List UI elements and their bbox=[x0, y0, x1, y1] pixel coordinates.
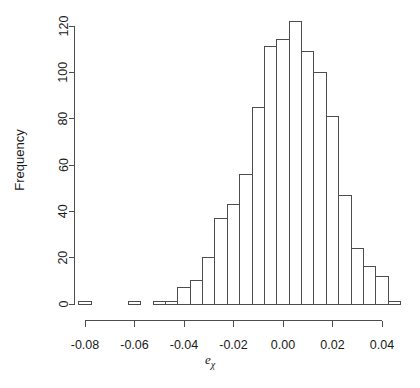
histogram-bar bbox=[314, 72, 326, 304]
y-axis: 020406080100120 bbox=[57, 16, 75, 308]
histogram-bar bbox=[264, 47, 276, 304]
histogram-bar bbox=[363, 267, 375, 304]
x-axis-tick-label: -0.08 bbox=[71, 338, 100, 352]
histogram-bar bbox=[302, 51, 314, 304]
x-axis-tick-label: 0.02 bbox=[320, 338, 344, 352]
histogram-bar bbox=[277, 40, 289, 304]
histogram-bar bbox=[165, 302, 177, 304]
x-axis-tick-label: -0.04 bbox=[170, 338, 199, 352]
histogram-bar bbox=[326, 116, 338, 304]
y-axis-tick-label: 0 bbox=[57, 300, 71, 307]
histogram-bar bbox=[351, 248, 363, 304]
histogram-bar bbox=[215, 218, 227, 304]
histogram-bar bbox=[153, 302, 165, 304]
histogram-canvas: 020406080100120 -0.08-0.06-0.04-0.020.00… bbox=[0, 0, 420, 388]
histogram-bar bbox=[388, 302, 400, 304]
bars-group bbox=[79, 21, 401, 304]
y-axis-tick-label: 100 bbox=[57, 62, 71, 83]
histogram-bar bbox=[79, 302, 91, 304]
y-axis-tick-label: 80 bbox=[57, 112, 71, 126]
histogram-bar bbox=[252, 107, 264, 304]
histogram-bar bbox=[203, 258, 215, 304]
y-axis-tick-label: 60 bbox=[57, 158, 71, 172]
histogram-bar bbox=[227, 204, 239, 304]
histogram-bar bbox=[190, 281, 202, 304]
histogram-figure: Frequency 020406080100120 -0.08-0.06-0.0… bbox=[0, 0, 420, 388]
x-axis-label: eχ bbox=[0, 352, 420, 370]
x-axis-tick-label: 0.00 bbox=[271, 338, 295, 352]
histogram-bar bbox=[178, 288, 190, 304]
x-axis-tick-label: -0.02 bbox=[219, 338, 248, 352]
y-axis-tick-label: 40 bbox=[57, 204, 71, 218]
x-axis-label-subscript: χ bbox=[211, 359, 215, 370]
histogram-bar bbox=[289, 21, 301, 304]
histogram-bar bbox=[376, 276, 388, 304]
x-axis: -0.08-0.06-0.04-0.020.000.020.04 bbox=[71, 321, 394, 353]
histogram-bar bbox=[339, 195, 351, 304]
x-axis-tick-label: -0.06 bbox=[120, 338, 149, 352]
y-axis-tick-label: 20 bbox=[57, 251, 71, 265]
histogram-bar bbox=[240, 174, 252, 304]
histogram-bar bbox=[128, 302, 140, 304]
y-axis-tick-label: 120 bbox=[57, 16, 71, 37]
x-axis-tick-label: 0.04 bbox=[370, 338, 394, 352]
